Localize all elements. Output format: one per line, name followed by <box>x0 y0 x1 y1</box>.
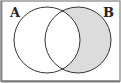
set-b-label: B <box>103 5 114 20</box>
venn-diagram: A B <box>0 0 121 83</box>
set-a-label: A <box>9 5 21 20</box>
